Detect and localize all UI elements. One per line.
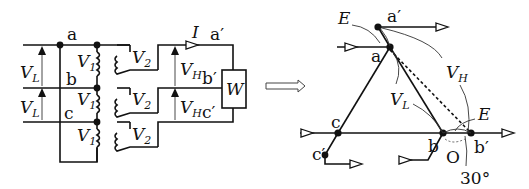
- label-e-top: E: [337, 8, 351, 28]
- label-a: a: [371, 46, 381, 66]
- c-cprime-branch: [325, 133, 355, 164]
- arrow-right-icon: [502, 129, 514, 137]
- label-vh: VH: [446, 62, 468, 85]
- transition-arrow: [266, 80, 305, 92]
- node-label-b: b: [66, 69, 77, 89]
- primary-coil-2-icon: [97, 95, 100, 113]
- arrow-right-icon: [436, 23, 448, 31]
- current-label: I: [191, 22, 199, 42]
- v1-label: V1: [77, 125, 96, 148]
- arrow-right-icon: [301, 129, 313, 137]
- vl-label: VL: [20, 62, 40, 85]
- node-label-c-prime: c′: [202, 102, 216, 122]
- node-dot-aprime: [374, 23, 381, 30]
- angle-dotted-arc: [445, 139, 465, 142]
- wattmeter-label: W: [226, 79, 245, 99]
- primary-coil-1-icon: [97, 52, 100, 76]
- node-label-b-prime: b′: [202, 68, 217, 88]
- junction-dot: [57, 42, 64, 49]
- double-arrow-icon: [266, 80, 305, 92]
- label-b: b: [428, 136, 439, 156]
- node-label-c: c: [64, 103, 74, 123]
- side-ac: [338, 47, 390, 133]
- vh-label: VH: [180, 59, 202, 82]
- junction-dot: [94, 119, 101, 126]
- arrow-right-icon: [350, 160, 362, 168]
- label-e-right: E: [477, 104, 491, 124]
- vl-arrow-icon: [38, 46, 46, 55]
- output-line-a: [158, 45, 233, 70]
- label-vl: VL: [390, 89, 410, 112]
- junction-dot: [94, 42, 101, 49]
- label-origin: O: [446, 147, 460, 167]
- vh-arrow-icon: [171, 88, 179, 97]
- v1-label: V1: [77, 89, 96, 112]
- v2-label: V2: [132, 124, 151, 147]
- vl-leader-top: [393, 52, 399, 84]
- v1-label: V1: [77, 51, 96, 74]
- v2-label: V2: [132, 47, 151, 70]
- angle-leader: [465, 136, 467, 166]
- vh-arrow-icon: [171, 46, 179, 55]
- label-c: c: [331, 112, 341, 132]
- arrow-right-icon: [345, 43, 357, 51]
- node-label-a: a: [67, 24, 77, 44]
- label-bprime: b′: [474, 137, 489, 157]
- primary-coil-3-icon: [97, 129, 100, 147]
- label-angle: 30°: [460, 168, 490, 188]
- vl-label: VL: [20, 97, 40, 120]
- label-aprime: a′: [387, 6, 401, 26]
- v2-label: V2: [132, 89, 151, 112]
- circuit-diagram: a b c VL VL V1 V1 V1 V2 V2 V2 VH VH I a′…: [20, 22, 246, 162]
- arrow-right-icon: [399, 156, 411, 164]
- vh-label: VH: [180, 97, 202, 120]
- junction-dot: [94, 85, 101, 92]
- node-label-a-prime: a′: [210, 24, 224, 44]
- diagram-canvas: a b c VL VL V1 V1 V1 V2 V2 V2 VH VH I a′…: [0, 0, 529, 189]
- phasor-diagram: E a′ a VH VL E c c′ b O b′ 30°: [300, 6, 514, 188]
- label-cprime: c′: [312, 144, 326, 164]
- current-arrow-icon: [186, 41, 198, 49]
- vl-arrow-icon: [38, 88, 46, 97]
- vh-leader: [382, 28, 442, 58]
